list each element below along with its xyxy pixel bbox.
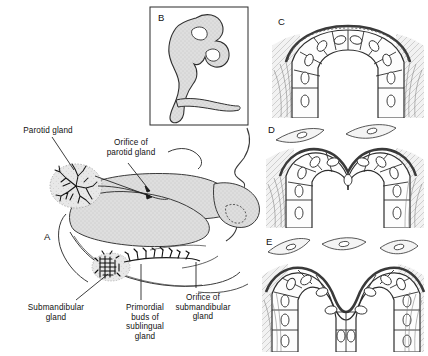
label-orifice-of-submandibular-gland: Orifice of submandibular gland [168, 293, 238, 322]
panel-letter-e: E [266, 236, 272, 247]
leader-line-parotid [52, 137, 74, 170]
label-primordial-buds-of-sublingual-gland: Primordial buds of sublingual gland [117, 303, 173, 341]
submandibular-duct [124, 258, 200, 262]
panel-letter-b: B [158, 12, 164, 23]
label-orifice-of-parotid-gland: Orifice of parotid gland [92, 138, 170, 157]
panel-c-epithelial-bud [268, 8, 426, 118]
submandibular-gland-structure [92, 247, 200, 281]
bud-lumen-upper [206, 49, 220, 61]
panel-letter-d: D [268, 124, 275, 135]
upper-lip-curve [168, 149, 202, 169]
panel-letter-c: C [278, 16, 285, 27]
panel-e-deep-cleft-bud [258, 230, 426, 352]
panel-b-branching-bud [150, 7, 248, 125]
mandibular-ramus [213, 183, 259, 228]
leader-line-submandibular [76, 274, 108, 300]
panel-letter-a: A [44, 231, 50, 242]
label-submandibular-gland: Submandibular gland [18, 303, 94, 322]
primordial-sublingual-buds [125, 247, 189, 261]
label-parotid-gland: Parotid gland [8, 126, 88, 136]
panel-d-clefting-bud [262, 120, 426, 228]
figure-canvas: Parotid gland Orifice of parotid gland S… [0, 0, 428, 356]
